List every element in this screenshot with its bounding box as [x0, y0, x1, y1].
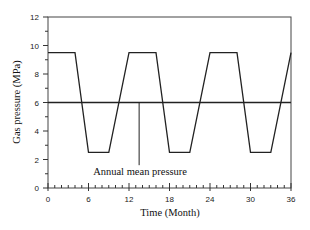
x-tick-label: 6 — [86, 195, 91, 204]
y-tick-label: 6 — [35, 99, 40, 108]
x-tick-label: 24 — [206, 195, 215, 204]
y-tick-label: 8 — [35, 70, 40, 79]
y-tick-label: 12 — [30, 13, 39, 22]
x-tick-label: 30 — [246, 195, 255, 204]
x-axis-ticks: 061218243036 — [46, 183, 296, 204]
x-tick-label: 12 — [125, 195, 134, 204]
y-tick-label: 0 — [35, 184, 40, 193]
y-tick-label: 4 — [35, 127, 40, 136]
y-axis-title: Gas pressure (MPa) — [11, 60, 23, 144]
x-axis-title: Time (Month) — [140, 207, 200, 219]
x-tick-label: 18 — [165, 195, 174, 204]
data-series — [48, 53, 291, 153]
x-tick-label: 0 — [46, 195, 51, 204]
y-axis-ticks: 024681012 — [30, 13, 48, 193]
y-tick-label: 2 — [35, 156, 40, 165]
annotation: Annual mean pressure — [93, 103, 187, 178]
x-tick-label: 36 — [287, 195, 296, 204]
gas-pressure-chart: 024681012 061218243036 Annual mean press… — [0, 0, 310, 230]
annotation-label: Annual mean pressure — [93, 166, 187, 177]
y-tick-label: 10 — [30, 42, 39, 51]
